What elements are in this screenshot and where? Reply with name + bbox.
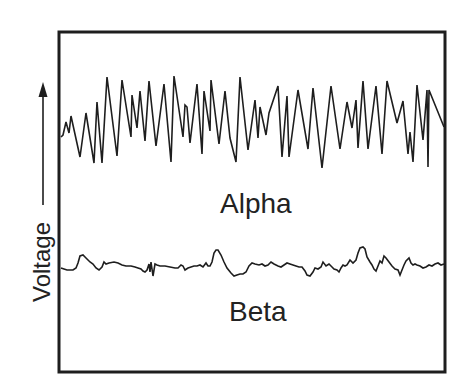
- beta-wave: [61, 247, 444, 276]
- alpha-wave: [61, 76, 444, 168]
- voltage-arrow-icon: [39, 82, 48, 205]
- voltage-axis-label: Voltage: [30, 222, 54, 302]
- beta-label: Beta: [229, 298, 287, 326]
- alpha-label: Alpha: [220, 190, 292, 218]
